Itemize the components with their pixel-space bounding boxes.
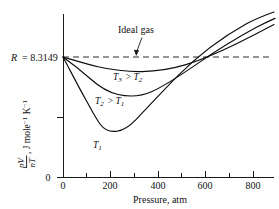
ideal-gas-arrowhead [134,50,139,56]
y-axis-title-numerator: pV [16,157,26,170]
y-axis-title-units: , J mole−1 K−1 [21,100,32,154]
curve-t1 [63,12,274,131]
ideal-gas-label: Ideal gas [118,24,154,35]
curve-label-t1: T1 [93,140,102,152]
chart-figure: Ideal gas T3 > T2 T2 > T1 T1 R = 8.3149 … [0,0,279,209]
x-axis-label-200: 200 [103,180,118,191]
curve-label-t2: T2 > T1 [95,96,124,108]
x-axis-label-800: 800 [246,180,261,191]
y-axis-label-0: 0 [46,172,51,183]
x-axis-label-0: 0 [61,180,66,191]
ideal-gas-pointer-line [137,38,143,53]
y-axis-title: pV nT , J mole−1 K−1 [16,100,37,169]
x-axis-label-400: 400 [151,180,166,191]
curve-t3 [63,25,274,72]
curve-label-t3: T3 > T2 [113,72,143,84]
x-axis-label-600: 600 [198,180,213,191]
r-constant-label: R = 8.3149 [10,52,58,63]
chart-canvas: Ideal gas T3 > T2 T2 > T1 T1 R = 8.3149 … [0,0,279,209]
y-axis-title-denominator: nT [27,157,37,168]
x-axis-title: Pressure, atm [133,194,187,205]
